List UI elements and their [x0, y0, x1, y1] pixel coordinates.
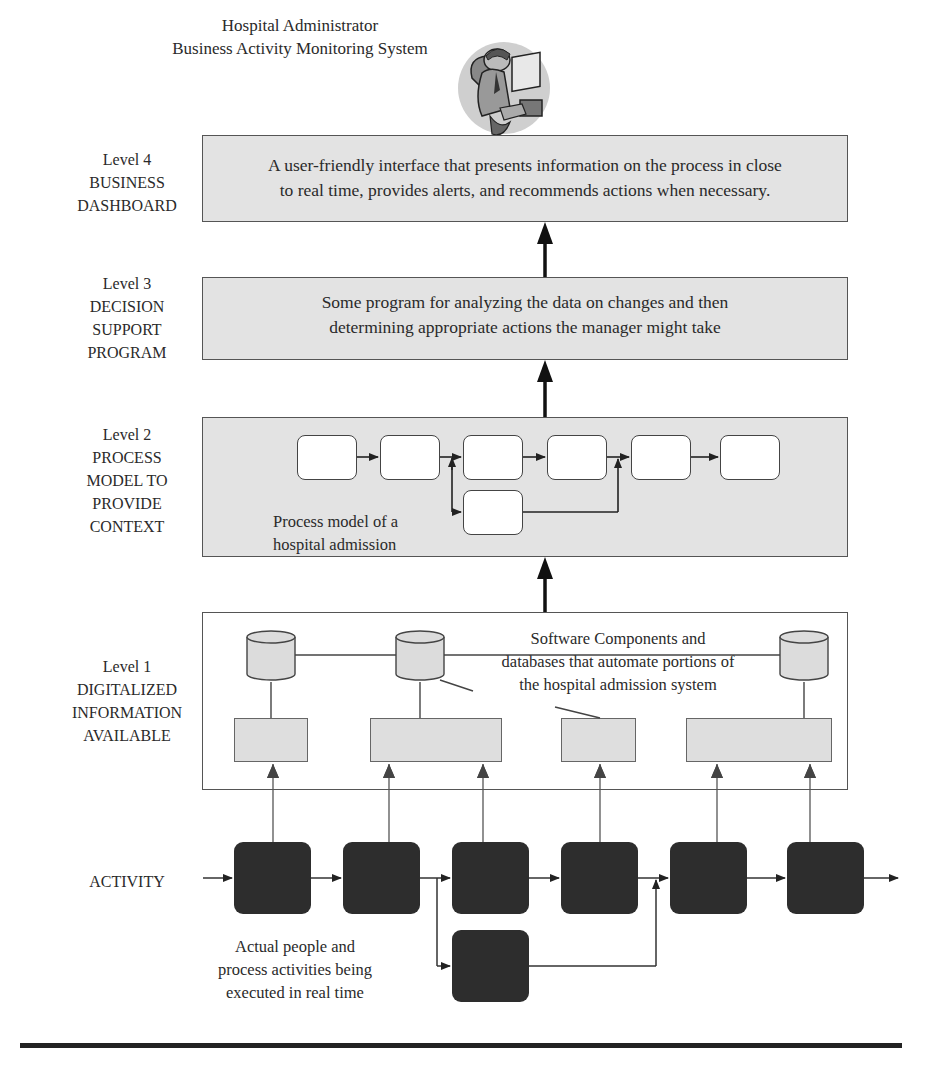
activity-caption-line2: process activities being	[200, 958, 390, 981]
level2-number: Level 2	[62, 423, 192, 446]
process-step-5	[631, 435, 691, 480]
title-line-2: Business Activity Monitoring System	[140, 37, 460, 60]
process-step-1	[297, 435, 357, 480]
level3-number: Level 3	[62, 272, 192, 295]
bottom-divider	[20, 1043, 902, 1048]
level1-number: Level 1	[62, 655, 192, 678]
level4-description: A user-friendly interface that presents …	[203, 153, 847, 203]
level2-label: Level 2 PROCESS MODEL TO PROVIDE CONTEXT	[62, 423, 192, 538]
level4-name-line2: DASHBOARD	[62, 194, 192, 217]
activity-step-3	[452, 842, 529, 914]
process-step-4	[547, 435, 607, 480]
level4-text-line1: A user-friendly interface that presents …	[203, 153, 847, 178]
level3-text-line1: Some program for analyzing the data on c…	[203, 290, 847, 315]
level4-label: Level 4 BUSINESS DASHBOARD	[62, 148, 192, 217]
diagram-title: Hospital Administrator Business Activity…	[140, 14, 460, 60]
level3-description: Some program for analyzing the data on c…	[203, 290, 847, 340]
software-caption-line3: the hospital admission system	[453, 673, 783, 696]
level3-name-line2: SUPPORT	[62, 318, 192, 341]
level4-number: Level 4	[62, 148, 192, 171]
process-step-branch	[463, 490, 523, 535]
activity-caption: Actual people and process activities bei…	[200, 935, 390, 1004]
level1-name-line1: DIGITALIZED	[62, 678, 192, 701]
software-component-3	[561, 718, 636, 762]
software-component-1	[234, 718, 308, 762]
level3-text-line2: determining appropriate actions the mana…	[203, 315, 847, 340]
level3-name-line1: DECISION	[62, 295, 192, 318]
level2-name-line3: PROVIDE	[62, 492, 192, 515]
level2-name-line4: CONTEXT	[62, 515, 192, 538]
software-caption-line2: databases that automate portions of	[453, 650, 783, 673]
level4-dashboard-box: A user-friendly interface that presents …	[202, 135, 848, 222]
level3-label: Level 3 DECISION SUPPORT PROGRAM	[62, 272, 192, 364]
level4-text-line2: to real time, provides alerts, and recom…	[203, 178, 847, 203]
activity-step-branch	[452, 930, 529, 1002]
activity-caption-line3: executed in real time	[200, 981, 390, 1004]
level2-name-line1: PROCESS	[62, 446, 192, 469]
level4-name-line1: BUSINESS	[62, 171, 192, 194]
process-step-2	[380, 435, 440, 480]
software-component-4	[686, 718, 832, 762]
level3-decision-support-box: Some program for analyzing the data on c…	[202, 277, 848, 360]
level1-name-line3: AVAILABLE	[62, 724, 192, 747]
level1-digitalized-info-box: Software Components and databases that a…	[202, 612, 848, 790]
software-caption-line1: Software Components and	[453, 627, 783, 650]
process-model-caption: Process model of a hospital admission	[273, 510, 398, 556]
activity-step-1	[234, 842, 311, 914]
process-model-caption-line1: Process model of a	[273, 510, 398, 533]
person-at-computer-icon	[452, 38, 552, 143]
activity-caption-line1: Actual people and	[200, 935, 390, 958]
level1-label: Level 1 DIGITALIZED INFORMATION AVAILABL…	[62, 655, 192, 747]
level2-name-line2: MODEL TO	[62, 469, 192, 492]
process-model-caption-line2: hospital admission	[273, 533, 398, 556]
activity-step-6	[787, 842, 864, 914]
process-step-6	[720, 435, 780, 480]
level1-name-line2: INFORMATION	[62, 701, 192, 724]
title-line-1: Hospital Administrator	[140, 14, 460, 37]
process-step-3	[463, 435, 523, 480]
level3-name-line3: PROGRAM	[62, 341, 192, 364]
activity-step-4	[561, 842, 638, 914]
software-component-2	[370, 718, 502, 762]
software-components-caption: Software Components and databases that a…	[453, 627, 783, 696]
activity-step-2	[343, 842, 420, 914]
activity-label: ACTIVITY	[62, 870, 192, 893]
activity-step-5	[670, 842, 747, 914]
